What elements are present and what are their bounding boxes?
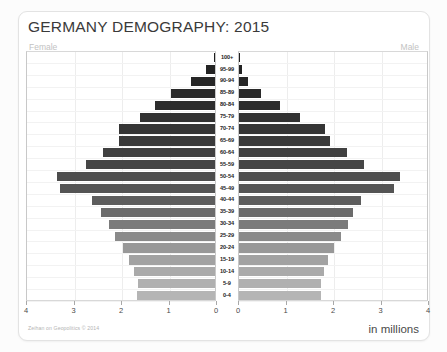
age-label-25-29: 25-29 [216,232,238,238]
x-ticklabel-female: 1 [161,306,177,315]
x-tick [169,301,170,305]
bar-male-85-89 [239,89,261,98]
bar-female-0-4 [137,291,215,300]
x-ticklabel-female: 4 [18,306,34,315]
bar-female-5-9 [138,279,215,288]
age-label-55-59: 55-59 [216,161,238,167]
bar-male-50-54 [239,172,400,181]
bar-row-female [27,207,215,219]
credit-text: Zeihan on Geopolitics © 2014 [28,325,99,331]
bar-row-male [239,52,427,64]
x-tick [121,301,122,305]
x-tick [216,301,217,305]
page-title: GERMANY DEMOGRAPHY: 2015 [28,18,269,36]
units-label: in millions [369,323,420,335]
age-label-75-79: 75-79 [216,113,238,119]
age-label-15-19: 15-19 [216,256,238,262]
bar-female-65-69 [119,136,215,145]
age-label-70-74: 70-74 [216,125,238,131]
x-tick [238,301,239,305]
age-label-100+: 100+ [216,54,238,60]
x-ticklabel-male: 3 [373,306,389,315]
bar-row-male [239,171,427,183]
bar-row-male [239,159,427,171]
x-ticklabel-female: 0 [208,306,224,315]
bar-row-male [239,278,427,290]
bar-row-male [239,64,427,76]
bar-female-70-74 [119,124,215,133]
bar-row-male [239,123,427,135]
bar-row-female [27,242,215,254]
bar-male-90-94 [239,77,248,86]
bar-row-male [239,100,427,112]
x-tick [74,301,75,305]
age-label-10-14: 10-14 [216,268,238,274]
age-label-5-9: 5-9 [216,280,238,286]
bar-male-25-29 [239,232,341,241]
bar-female-20-24 [123,243,215,252]
bar-row-female [27,64,215,76]
bar-row-female [27,123,215,135]
age-label-60-64: 60-64 [216,149,238,155]
female-panel [26,51,216,301]
bar-male-10-14 [239,267,324,276]
bar-female-55-59 [86,160,215,169]
x-tick [428,301,429,305]
age-label-50-54: 50-54 [216,173,238,179]
bar-row-male [239,242,427,254]
age-label-0-4: 0-4 [216,292,238,298]
age-label-65-69: 65-69 [216,137,238,143]
age-label-85-89: 85-89 [216,89,238,95]
bar-row-male [239,207,427,219]
bar-female-100+ [214,53,215,62]
bar-female-85-89 [171,89,215,98]
bar-row-male [239,195,427,207]
bar-male-65-69 [239,136,330,145]
bar-female-25-29 [115,232,215,241]
bar-row-male [239,76,427,88]
x-ticklabel-male: 4 [420,306,436,315]
bar-row-female [27,52,215,64]
bar-row-female [27,278,215,290]
bar-male-20-24 [239,243,334,252]
bar-row-female [27,88,215,100]
bar-row-female [27,195,215,207]
x-ticklabel-female: 2 [113,306,129,315]
bar-row-male [239,219,427,231]
bar-male-40-44 [239,196,361,205]
x-tick [286,301,287,305]
x-tick [333,301,334,305]
bar-female-60-64 [103,148,215,157]
bar-row-male [239,135,427,147]
age-label-80-84: 80-84 [216,101,238,107]
x-ticklabel-male: 1 [278,306,294,315]
bar-male-75-79 [239,113,300,122]
bar-female-50-54 [57,172,215,181]
bar-female-15-19 [129,255,215,264]
bar-female-35-39 [101,208,215,217]
bar-male-95-99 [239,65,242,74]
bar-row-female [27,171,215,183]
bar-row-female [27,112,215,124]
bar-row-female [27,135,215,147]
screenshot-root: GERMANY DEMOGRAPHY: 2015 Female Male 100… [0,0,447,352]
bar-row-female [27,231,215,243]
x-ticklabel-male: 2 [325,306,341,315]
bar-row-female [27,147,215,159]
bar-female-80-84 [155,101,215,110]
bar-row-female [27,76,215,88]
bar-male-15-19 [239,255,328,264]
bar-male-0-4 [239,291,321,300]
bar-male-80-84 [239,101,280,110]
age-label-30-34: 30-34 [216,220,238,226]
bar-row-male [239,112,427,124]
bar-female-75-79 [140,113,215,122]
bar-female-10-14 [134,267,215,276]
x-ticklabel-male: 0 [230,306,246,315]
bar-male-35-39 [239,208,353,217]
bar-female-90-94 [191,77,215,86]
bar-row-female [27,254,215,266]
bar-row-male [239,147,427,159]
bar-row-male [239,231,427,243]
bar-row-female [27,159,215,171]
